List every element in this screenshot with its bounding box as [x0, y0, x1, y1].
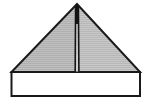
- brim-shape: [11, 72, 140, 96]
- paper-hat-diagram: [0, 0, 150, 104]
- center-crease-right-line: [78, 6, 79, 72]
- figure-container: Folded paper hat outline Line drawing of…: [0, 0, 150, 104]
